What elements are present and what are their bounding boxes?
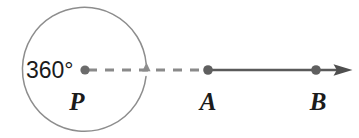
label-p: P [68,88,85,115]
point-p-dot [80,65,89,74]
point-b [311,65,321,75]
figure-canvas: 360° P A B [0,0,359,138]
solid-ray-a-b [208,64,353,75]
angle-measure-label: 360° [26,57,74,83]
point-a-dot [203,65,213,75]
label-a: A [198,88,217,115]
point-p [80,65,89,74]
geometry-figure: 360° P A B [0,0,359,138]
point-a [203,65,213,75]
point-b-dot [311,65,321,75]
label-b: B [309,88,327,115]
